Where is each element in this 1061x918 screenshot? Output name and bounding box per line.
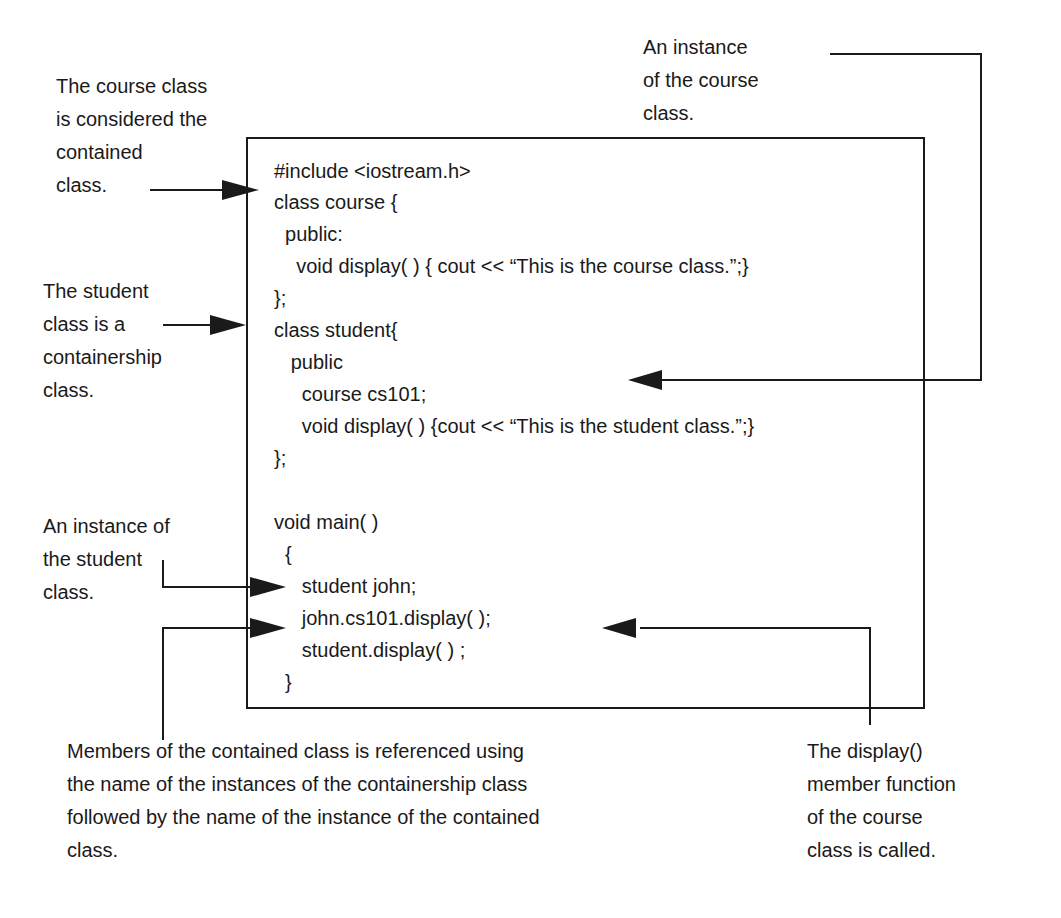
code-line-close-main: } bbox=[274, 667, 292, 697]
code-line-close-course: }; bbox=[274, 283, 286, 313]
code-line-student-john: student john; bbox=[274, 571, 416, 601]
annotation-student-containership-class: The student class is a containership cla… bbox=[43, 275, 162, 407]
arrowhead-containership-icon bbox=[210, 315, 246, 335]
annotation-display-called: The display() member function of the cou… bbox=[807, 735, 956, 867]
code-line-course-cs101: course cs101; bbox=[274, 379, 426, 409]
annotation-members-referenced: Members of the contained class is refere… bbox=[67, 735, 540, 867]
arrow-members-referenced-bracket bbox=[163, 628, 255, 740]
code-line-void-main: void main( ) bbox=[274, 507, 378, 537]
code-line-class-course: class course { bbox=[274, 187, 397, 217]
code-line-include: #include <iostream.h> bbox=[274, 156, 471, 186]
arrow-student-instance-bracket bbox=[163, 560, 255, 587]
annotation-student-instance: An instance of the student class. bbox=[43, 510, 170, 609]
code-line-class-student: class student{ bbox=[274, 315, 397, 345]
code-line-student-display-call: student.display( ) ; bbox=[274, 635, 465, 665]
code-line-course-display: void display( ) { cout << “This is the c… bbox=[274, 251, 749, 281]
code-line-student-display: void display( ) {cout << “This is the st… bbox=[274, 411, 754, 441]
code-line-close-student: }; bbox=[274, 443, 286, 473]
code-line-public-2: public bbox=[274, 347, 343, 377]
code-listing-box: #include <iostream.h> class course { pub… bbox=[246, 137, 925, 709]
code-line-john-cs101-display: john.cs101.display( ); bbox=[274, 603, 491, 633]
code-line-public-1: public: bbox=[274, 219, 343, 249]
annotation-course-instance: An instance of the course class. bbox=[643, 31, 759, 130]
code-line-open-main: { bbox=[274, 539, 292, 569]
annotation-course-contained-class: The course class is considered the conta… bbox=[56, 70, 207, 202]
